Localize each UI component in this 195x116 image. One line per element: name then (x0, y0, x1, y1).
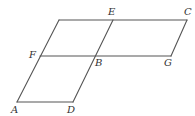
label-G: G (164, 57, 172, 68)
label-C: C (184, 6, 192, 17)
label-D: D (66, 104, 75, 115)
segment-left-slant (17, 20, 59, 102)
labels: E C F B G A D (10, 6, 192, 115)
segment-slant-CG (171, 20, 187, 56)
segment-slant-ED (73, 20, 113, 102)
label-B: B (94, 57, 102, 68)
label-F: F (28, 49, 37, 60)
label-E: E (107, 6, 116, 17)
geometry-diagram: E C F B G A D (0, 0, 195, 116)
label-A: A (10, 104, 18, 115)
